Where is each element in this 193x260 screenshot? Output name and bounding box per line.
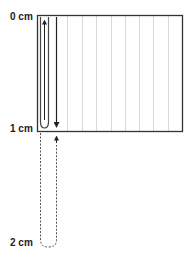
u-tube-dashed [41,133,57,247]
label-0cm: 0 cm [10,12,33,22]
label-2cm: 2 cm [10,238,33,248]
tissue-box [38,16,183,132]
grid-lines [68,16,169,131]
label-1cm: 1 cm [10,124,33,134]
